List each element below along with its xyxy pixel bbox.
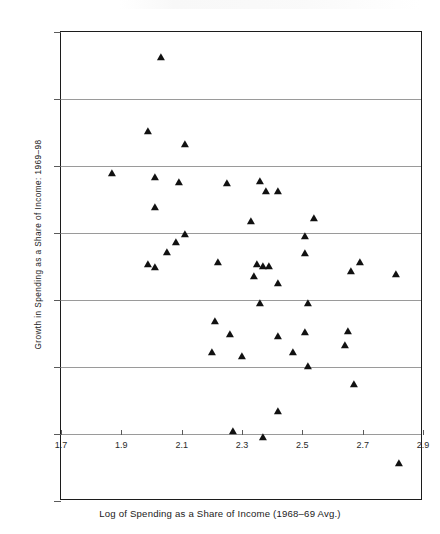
- data-point-marker: [262, 187, 270, 194]
- data-point-marker: [392, 270, 400, 277]
- data-point-marker: [274, 407, 282, 414]
- gridline: [61, 166, 421, 167]
- y-axis-tick-mark: [54, 233, 61, 234]
- data-point-marker: [250, 272, 258, 279]
- x-axis-tick-mark: [242, 430, 243, 435]
- x-axis-tick-mark: [182, 430, 183, 435]
- x-axis-tick-label: 2.1: [175, 440, 188, 450]
- x-axis-tick-label: 2.5: [296, 440, 309, 450]
- x-axis-tick-mark: [363, 430, 364, 435]
- y-axis-title: Growth in Spending as a Share of Income:…: [34, 115, 43, 375]
- y-axis-tick-mark: [54, 166, 61, 167]
- data-point-marker: [144, 127, 152, 134]
- gridline: [61, 367, 421, 368]
- data-point-marker: [274, 187, 282, 194]
- gridline: [61, 300, 421, 301]
- data-point-marker: [256, 177, 264, 184]
- y-axis-tick-mark: [54, 300, 61, 301]
- data-point-marker: [289, 348, 297, 355]
- gridline: [61, 99, 421, 100]
- data-point-marker: [346, 267, 354, 274]
- y-axis-tick-mark: [54, 434, 61, 435]
- data-point-marker: [208, 348, 216, 355]
- x-axis-tick-mark: [302, 430, 303, 435]
- data-point-marker: [356, 259, 364, 266]
- data-point-marker: [211, 318, 219, 325]
- data-point-marker: [343, 327, 351, 334]
- x-axis-tick-label: 1.9: [115, 440, 128, 450]
- x-axis-title: Log of Spending as a Share of Income (19…: [0, 508, 440, 519]
- data-point-marker: [304, 362, 312, 369]
- data-point-marker: [304, 299, 312, 306]
- x-axis-tick-label: 2.9: [417, 440, 430, 450]
- scatter-chart-figure: Growth in Spending as a Share of Income:…: [0, 0, 440, 534]
- data-point-marker: [150, 203, 158, 210]
- y-axis-tick-mark: [54, 32, 61, 33]
- data-point-marker: [340, 341, 348, 348]
- data-point-marker: [274, 332, 282, 339]
- data-point-marker: [395, 459, 403, 466]
- data-point-marker: [226, 330, 234, 337]
- data-point-marker: [310, 215, 318, 222]
- data-point-marker: [223, 180, 231, 187]
- data-point-marker: [181, 231, 189, 238]
- gridline: [61, 233, 421, 234]
- x-axis-tick-mark: [423, 430, 424, 435]
- gridline: [61, 434, 421, 435]
- x-axis-tick-mark: [61, 430, 62, 435]
- y-axis-tick-mark: [54, 501, 61, 502]
- data-point-marker: [259, 434, 267, 441]
- data-point-marker: [238, 353, 246, 360]
- data-point-marker: [265, 262, 273, 269]
- data-point-marker: [214, 259, 222, 266]
- data-point-marker: [229, 428, 237, 435]
- data-point-marker: [150, 263, 158, 270]
- x-axis-tick-label: 2.7: [356, 440, 369, 450]
- data-point-marker: [175, 178, 183, 185]
- y-axis-tick-mark: [54, 367, 61, 368]
- data-point-marker: [301, 232, 309, 239]
- data-point-marker: [162, 248, 170, 255]
- data-point-marker: [108, 170, 116, 177]
- x-axis-tick-label: 1.7: [55, 440, 68, 450]
- x-axis-tick-mark: [121, 430, 122, 435]
- data-point-marker: [156, 54, 164, 61]
- x-axis-tick-label: 2.3: [236, 440, 249, 450]
- data-point-marker: [256, 299, 264, 306]
- data-point-marker: [274, 280, 282, 287]
- page-top-artifact: [120, 0, 420, 9]
- data-point-marker: [181, 140, 189, 147]
- data-point-marker: [150, 173, 158, 180]
- data-point-marker: [350, 380, 358, 387]
- data-point-marker: [301, 249, 309, 256]
- y-axis-tick-mark: [54, 99, 61, 100]
- data-point-marker: [172, 239, 180, 246]
- plot-area: 60%50%40%30%20%10%0%-10%1.71.92.12.32.52…: [60, 31, 422, 500]
- data-point-marker: [247, 217, 255, 224]
- data-point-marker: [301, 328, 309, 335]
